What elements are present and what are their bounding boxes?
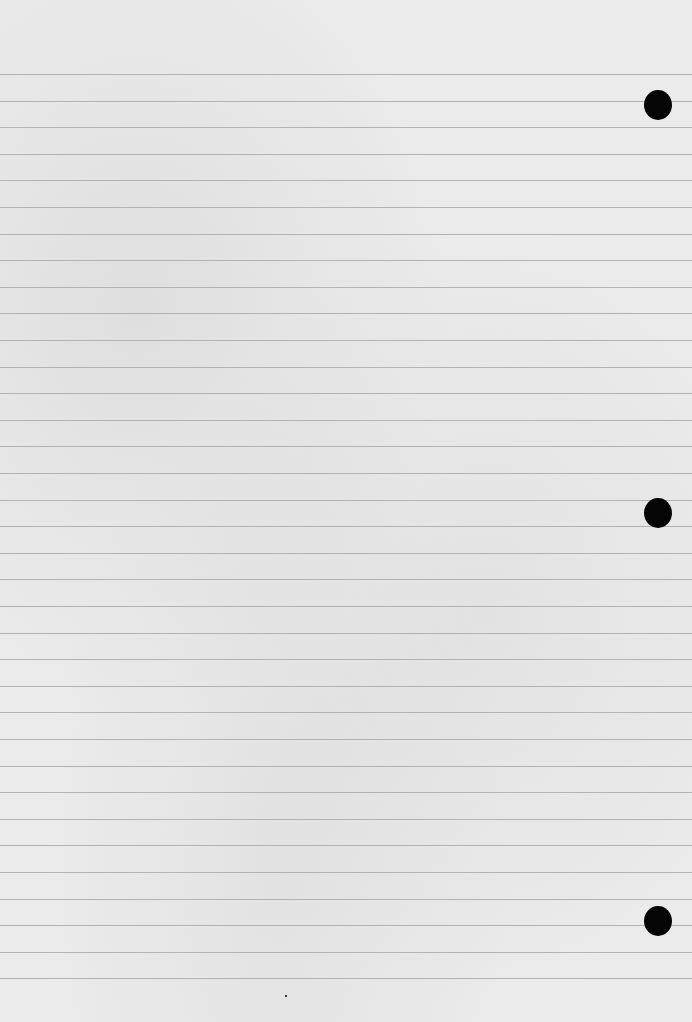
ruled-line [0, 287, 692, 288]
ruled-line [0, 899, 692, 900]
ruled-line [0, 127, 692, 128]
ruled-line [0, 234, 692, 235]
ruled-line [0, 766, 692, 767]
ruled-line [0, 925, 692, 926]
paper-speck [285, 995, 287, 997]
ruled-line [0, 633, 692, 634]
ruled-line [0, 101, 692, 102]
ruled-line [0, 606, 692, 607]
ruled-line [0, 579, 692, 580]
ruled-line [0, 420, 692, 421]
ruled-line [0, 952, 692, 953]
ruled-line [0, 500, 692, 501]
ruled-line [0, 180, 692, 181]
ruled-line [0, 659, 692, 660]
ruled-line [0, 686, 692, 687]
ruled-line [0, 739, 692, 740]
ruled-line [0, 446, 692, 447]
ruled-line [0, 792, 692, 793]
ruled-line [0, 207, 692, 208]
ruled-line [0, 712, 692, 713]
ruled-line [0, 819, 692, 820]
punch-hole [644, 498, 672, 528]
ruled-line [0, 845, 692, 846]
ruled-line [0, 526, 692, 527]
ruled-line [0, 872, 692, 873]
ruled-line [0, 393, 692, 394]
ruled-line [0, 313, 692, 314]
ruled-line [0, 154, 692, 155]
lined-paper [0, 0, 692, 1022]
ruled-line [0, 553, 692, 554]
ruled-line [0, 260, 692, 261]
ruled-line [0, 367, 692, 368]
ruled-line [0, 473, 692, 474]
ruled-line [0, 340, 692, 341]
punch-hole [644, 90, 672, 120]
ruled-line [0, 74, 692, 75]
punch-hole [644, 906, 672, 936]
ruled-line [0, 978, 692, 979]
